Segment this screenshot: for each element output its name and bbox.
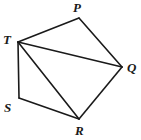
edge-QR xyxy=(79,67,122,119)
pentagon-perimeter xyxy=(18,18,122,119)
diagonal-TR xyxy=(18,42,79,119)
edge-ST xyxy=(18,42,19,98)
edge-PQ xyxy=(79,18,122,67)
vertex-label-R: R xyxy=(75,124,84,137)
vertex-label-P: P xyxy=(73,1,81,14)
edge-TP xyxy=(18,18,79,42)
pentagon-diagonals xyxy=(18,42,122,119)
figure-canvas xyxy=(0,0,141,140)
vertex-label-S: S xyxy=(4,101,11,114)
vertex-label-Q: Q xyxy=(127,61,136,74)
diagonal-TQ xyxy=(18,42,122,67)
geometry-figure: P Q R S T xyxy=(0,0,141,140)
vertex-label-T: T xyxy=(3,33,11,46)
